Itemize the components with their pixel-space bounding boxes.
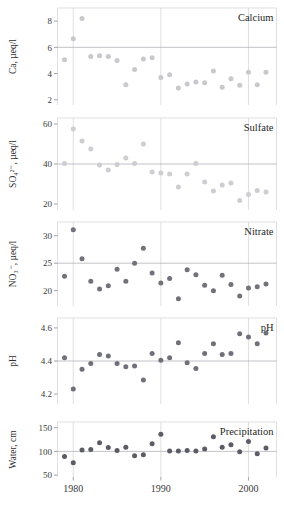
- data-point: [246, 439, 251, 444]
- panel-ph: 4.24.44.6pHpH: [8, 318, 277, 404]
- data-point: [88, 147, 93, 152]
- data-point: [123, 364, 128, 369]
- data-point: [211, 68, 216, 73]
- data-point: [255, 451, 260, 456]
- figure-container: 2468Ca, µeq/lCalcium204060SO₄²⁻, µeq/lSu…: [0, 0, 284, 513]
- yaxis-label-precipitation: Water, cm: [8, 430, 18, 469]
- data-point: [141, 378, 146, 383]
- yaxis-label-sulfate: SO₄²⁻, µeq/l: [8, 140, 18, 188]
- data-point: [202, 447, 207, 452]
- data-point: [80, 139, 85, 144]
- data-point: [263, 70, 268, 75]
- data-point: [220, 352, 225, 357]
- data-point: [263, 446, 268, 451]
- data-point: [255, 341, 260, 346]
- data-point: [246, 335, 251, 340]
- data-point: [202, 80, 207, 85]
- ytick-label-nitrate-2: 30: [43, 231, 53, 241]
- data-point: [167, 276, 172, 281]
- data-point: [220, 445, 225, 450]
- data-point: [115, 58, 120, 63]
- ytick-label-precipitation-1: 100: [39, 447, 53, 457]
- x-axis: 198019902000: [63, 477, 258, 494]
- data-point: [115, 162, 120, 167]
- data-point: [80, 16, 85, 21]
- ytick-label-calcium-2: 6: [48, 43, 53, 53]
- panel-title-precipitation: Precipitation: [220, 426, 274, 437]
- data-point: [80, 367, 85, 372]
- data-point: [62, 454, 67, 459]
- panel-title-nitrate: Nitrate: [244, 226, 273, 237]
- data-point: [71, 227, 76, 232]
- yaxis-label-nitrate: NO₃⁻, µeq/l: [8, 240, 18, 287]
- data-point: [193, 272, 198, 277]
- data-point: [106, 283, 111, 288]
- data-point: [193, 448, 198, 453]
- data-point: [141, 57, 146, 62]
- data-point: [88, 447, 93, 452]
- data-point: [71, 127, 76, 132]
- data-point: [71, 387, 76, 392]
- ytick-label-sulfate-1: 40: [43, 159, 53, 169]
- data-points-sulfate: [62, 127, 268, 203]
- yaxis-label-calcium: Ca, µeq/l: [8, 39, 18, 74]
- data-point: [263, 282, 268, 287]
- data-point: [167, 172, 172, 177]
- data-point: [185, 267, 190, 272]
- ytick-label-nitrate-1: 25: [43, 258, 53, 268]
- data-point: [263, 330, 268, 335]
- data-point: [255, 82, 260, 87]
- xtick-label-1: 1990: [151, 483, 171, 494]
- data-point: [106, 445, 111, 450]
- data-point: [106, 354, 111, 359]
- data-point: [176, 448, 181, 453]
- data-point: [220, 183, 225, 188]
- data-point: [228, 76, 233, 81]
- panel-nitrate: 202530NO₃⁻, µeq/lNitrate: [8, 222, 277, 306]
- data-point: [141, 452, 146, 457]
- multi-panel-scatter-chart: 2468Ca, µeq/lCalcium204060SO₄²⁻, µeq/lSu…: [0, 0, 284, 513]
- data-point: [150, 170, 155, 175]
- xtick-label-0: 1980: [63, 483, 83, 494]
- ytick-label-ph-1: 4.4: [41, 356, 53, 366]
- data-point: [150, 351, 155, 356]
- data-point: [158, 75, 163, 80]
- data-point: [141, 142, 146, 147]
- data-point: [255, 188, 260, 193]
- data-point: [167, 355, 172, 360]
- data-point: [123, 82, 128, 87]
- data-point: [71, 460, 76, 465]
- data-point: [176, 185, 181, 190]
- data-points-calcium: [62, 16, 268, 90]
- data-point: [106, 54, 111, 59]
- data-point: [115, 361, 120, 366]
- data-point: [123, 279, 128, 284]
- data-point: [211, 288, 216, 293]
- panel-sulfate: 204060SO₄²⁻, µeq/lSulfate: [8, 118, 277, 210]
- data-point: [185, 448, 190, 453]
- data-point: [80, 447, 85, 452]
- data-point: [202, 351, 207, 356]
- data-point: [62, 355, 67, 360]
- data-point: [97, 352, 102, 357]
- data-point: [71, 36, 76, 41]
- data-point: [193, 366, 198, 371]
- data-point: [88, 361, 93, 366]
- data-point: [158, 280, 163, 285]
- data-point: [132, 261, 137, 266]
- data-point: [150, 271, 155, 276]
- data-point: [115, 448, 120, 453]
- data-point: [97, 286, 102, 291]
- data-point: [228, 181, 233, 186]
- data-point: [97, 53, 102, 58]
- yaxis-label-ph: pH: [8, 355, 18, 367]
- data-point: [97, 163, 102, 168]
- data-point: [115, 267, 120, 272]
- data-point: [167, 448, 172, 453]
- ytick-label-ph-0: 4.2: [41, 389, 52, 399]
- data-points-nitrate: [62, 227, 268, 301]
- data-point: [237, 449, 242, 454]
- ytick-label-sulfate-2: 60: [43, 119, 53, 129]
- ytick-label-precipitation-2: 150: [39, 423, 53, 433]
- data-point: [106, 168, 111, 173]
